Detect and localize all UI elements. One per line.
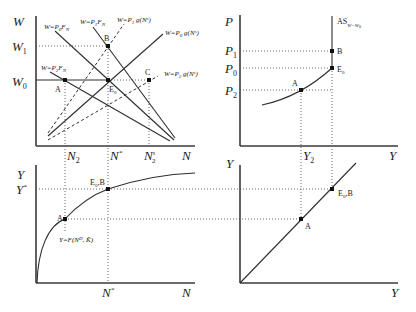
label-supply-p1: W=P1 g(Ns)	[117, 16, 152, 25]
point-c-labor	[147, 78, 151, 82]
point-e0-labor	[106, 78, 110, 82]
nstar-tick: N*	[109, 148, 123, 163]
label-e0b-prod: E0,B	[90, 178, 105, 188]
w-axis-label: W	[13, 14, 25, 29]
x-axis-label-45: Y	[391, 285, 400, 300]
label-c-labor: C	[145, 68, 150, 77]
ystar-tick: Y*	[16, 182, 27, 197]
p1-tick: P1	[224, 43, 237, 60]
demand-curve-p1	[93, 27, 175, 138]
nstar-tick-bottom: N*	[101, 285, 115, 300]
label-e0-as: E0	[337, 65, 345, 75]
label-a-labor: A	[55, 85, 61, 94]
four-quadrant-diagram: W W1 W0 W=P0FN W=P1FN W=P2FN W=P1 g(Ns) …	[0, 0, 416, 312]
label-a-45: A	[305, 222, 311, 231]
w1-tick: W1	[12, 39, 27, 56]
point-a-labor	[63, 78, 67, 82]
label-demand-p2: W=P2FN	[41, 64, 67, 73]
point-b-labor	[106, 44, 110, 48]
p-axis-label: P	[224, 14, 233, 29]
supply-curve-p0	[48, 34, 163, 136]
label-a-prod: A	[57, 214, 63, 223]
point-e0b-45	[330, 187, 334, 191]
n-axis-label-bottom: N	[181, 285, 192, 300]
point-a-as	[299, 88, 303, 92]
label-a-as: A	[292, 79, 298, 88]
y-axis-label-45: Y	[226, 156, 235, 171]
label-demand-p1: W=P1FN	[80, 18, 106, 27]
label-demand-p0: W=P0FN	[44, 23, 70, 32]
label-supply-p0: W=P0 g(Ns)	[165, 29, 200, 38]
forty-five-degree-line	[240, 163, 356, 283]
as-label: ASW=W0	[337, 17, 361, 29]
production-function-label: Y=F(ND, K̄)	[59, 236, 94, 244]
label-b-labor: B	[104, 34, 109, 43]
labor-market-panel: W W1 W0 W=P0FN W=P1FN W=P2FN W=P1 g(Ns) …	[12, 14, 200, 283]
y2-tick: Y2	[303, 148, 314, 165]
n-axis-label-top: N	[181, 148, 192, 163]
p0-tick: P0	[224, 61, 237, 78]
w0-tick: W0	[12, 74, 27, 91]
n2s-tick: Ns2	[143, 148, 156, 165]
point-e0-as	[330, 66, 334, 70]
point-e0b-prod	[106, 187, 110, 191]
point-a-prod	[63, 217, 67, 221]
label-b-as: B	[337, 47, 342, 56]
production-function-panel: Y Y* A E0,B Y=F(ND, K̄) N* N	[16, 165, 332, 300]
production-curve	[37, 173, 195, 283]
label-supply-p2: W=P2 g(Ns)	[164, 70, 199, 79]
y-axis-label-as: Y	[389, 148, 398, 163]
point-a-45	[299, 217, 303, 221]
aggregate-supply-panel: P P1 P0 P2 ASW=W0 A B E0 Y2 Y	[224, 14, 398, 219]
supply-curve-p2	[48, 76, 158, 140]
n2-tick: N2	[66, 148, 80, 165]
label-e0b-45: E0,B	[338, 189, 353, 199]
y-axis-label-prod: Y	[17, 167, 26, 182]
forty-five-degree-panel: Y Y A E0,B	[226, 156, 400, 300]
p2-tick: P2	[224, 83, 237, 100]
point-b-as	[330, 49, 334, 53]
